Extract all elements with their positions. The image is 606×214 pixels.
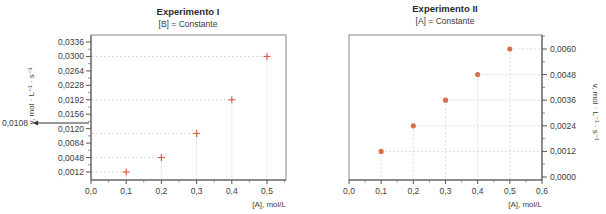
x-tick-label: 0,4 [472, 186, 484, 196]
x-tick-label: 0,5 [504, 186, 516, 196]
y-axis-label: v, mol · L⁻¹ · s⁻¹ [27, 67, 36, 124]
y-tick-label: 0,0060 [550, 44, 576, 54]
x-tick-label: 0,6 [536, 186, 548, 196]
dot-marker-icon [475, 72, 480, 77]
x-tick-label: 0,2 [155, 186, 167, 196]
dot-marker-icon [411, 123, 416, 128]
x-tick-label: 0,4 [226, 186, 238, 196]
y-tick-label: 0,0012 [550, 146, 576, 156]
y-tick-label: 0,0300 [58, 51, 84, 61]
chart-subtitle: [B] = Constante [159, 19, 218, 29]
y-tick-label: 0,0000 [550, 172, 576, 182]
x-axis-label: [A], mol/L [508, 200, 542, 209]
dot-marker-icon [443, 98, 448, 103]
y-tick-label: 0,0192 [58, 95, 84, 105]
chart-experimento-i: Experimento I [B] = Constante 0,00120,00… [2, 6, 287, 209]
chart-experimento-ii: Experimento II [A] = Constante 0,00000,0… [343, 3, 600, 209]
y-tick-label: 0,0264 [58, 66, 84, 76]
x-tick-label: 0,0 [85, 186, 97, 196]
dot-marker-icon [507, 46, 512, 51]
chart-title: Experimento I [157, 6, 220, 17]
plot-area [349, 35, 542, 180]
x-axis-label: [A], mol/L [252, 200, 286, 209]
y-tick-label: 0,0012 [58, 167, 84, 177]
y-tick-label: 0,0336 [58, 37, 84, 47]
y-tick-label: 0,0156 [58, 109, 84, 119]
chart-subtitle: [A] = Constante [416, 16, 475, 26]
y-tick-label: 0,0024 [550, 121, 576, 131]
chart-title: Experimento II [412, 3, 477, 14]
y-tick-label: 0,0048 [550, 70, 576, 80]
y-tick-label: 0,0036 [550, 95, 576, 105]
annotation-label: 0,0108 [2, 118, 28, 128]
charts-canvas: Experimento I [B] = Constante 0,00120,00… [0, 0, 606, 214]
x-tick-label: 0,3 [191, 186, 203, 196]
x-tick-label: 0,0 [343, 186, 355, 196]
y-tick-label: 0,0120 [58, 124, 84, 134]
y-tick-label: 0,0084 [58, 138, 84, 148]
y-axis-ticks: 0,00000,00120,00240,00360,00480,0060 [542, 36, 576, 182]
x-axis-ticks: 0,00,10,20,30,40,5 [85, 180, 285, 196]
y-tick-label: 0,0048 [58, 153, 84, 163]
y-axis-ticks: 0,00120,00480,00840,01200,01560,01920,02… [58, 37, 91, 177]
x-tick-label: 0,1 [120, 186, 132, 196]
x-tick-label: 0,2 [407, 186, 419, 196]
y-axis-label: v, mol · L⁻¹ · s⁻¹ [591, 84, 600, 141]
dot-marker-icon [379, 149, 384, 154]
y-tick-label: 0,0228 [58, 80, 84, 90]
x-axis-ticks: 0,00,10,20,30,40,50,6 [343, 180, 548, 196]
x-tick-label: 0,1 [375, 186, 387, 196]
x-tick-label: 0,5 [261, 186, 273, 196]
x-tick-label: 0,3 [440, 186, 452, 196]
